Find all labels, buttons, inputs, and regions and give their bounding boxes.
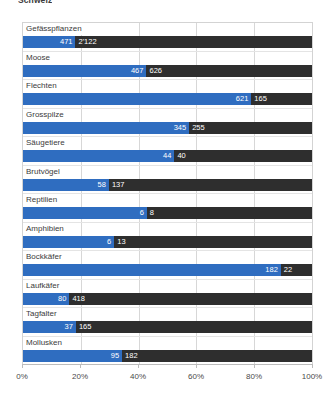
bar-value-label: 6	[140, 207, 144, 219]
chart-row: Moose467626	[23, 52, 312, 81]
x-axis-tick	[196, 364, 197, 368]
gridline	[312, 23, 313, 364]
bar-value-label: 345	[174, 122, 187, 134]
bar-segment-blau: 345	[23, 122, 189, 134]
x-axis-tick-label: 20%	[72, 372, 88, 381]
category-label: Säugetiere	[26, 137, 67, 149]
bar-value-label: 621	[236, 93, 249, 105]
bar-value-label: 418	[72, 293, 85, 305]
bar-segment-blau: 44	[23, 150, 174, 162]
x-axis-tick	[312, 364, 313, 368]
x-axis-tick	[138, 364, 139, 368]
stacked-bar: 345255	[23, 122, 312, 134]
bar-segment-dunkel: 182	[122, 350, 312, 362]
bar-segment-blau: 467	[23, 65, 146, 77]
bar-segment-dunkel: 626	[146, 65, 312, 77]
stacked-bar: 4712'122	[23, 36, 312, 48]
bar-segment-dunkel: 8	[147, 207, 312, 219]
category-label: Gefässpflanzen	[26, 23, 84, 35]
bar-value-label: 22	[284, 264, 292, 276]
bar-value-label: 2'122	[78, 36, 96, 48]
bar-value-label: 471	[60, 36, 73, 48]
stacked-bar: 467626	[23, 65, 312, 77]
category-label: Brutvögel	[26, 166, 62, 178]
x-axis-tick	[254, 364, 255, 368]
bar-value-label: 182	[265, 264, 278, 276]
bar-segment-blau: 80	[23, 293, 69, 305]
bar-value-label: 37	[65, 321, 73, 333]
bar-segment-dunkel: 40	[174, 150, 312, 162]
chart-plot-area: Gefässpflanzen4712'122Moose467626Flechte…	[22, 22, 313, 364]
bar-segment-dunkel: 137	[109, 179, 312, 191]
bar-segment-blau: 6	[23, 236, 114, 248]
stacked-bar: 37165	[23, 321, 312, 333]
category-label: Bockkäfer	[26, 251, 64, 263]
bar-segment-dunkel: 418	[69, 293, 312, 305]
stacked-bar: 58137	[23, 179, 312, 191]
bar-segment-dunkel: 2'122	[75, 36, 312, 48]
category-label: Amphibien	[26, 223, 66, 235]
stacked-bar: 68	[23, 207, 312, 219]
chart-row: Grosspilze345255	[23, 109, 312, 138]
bar-value-label: 58	[98, 179, 106, 191]
bar-segment-dunkel: 255	[189, 122, 312, 134]
bar-value-label: 165	[254, 93, 267, 105]
bar-segment-dunkel: 22	[281, 264, 312, 276]
bar-value-label: 626	[149, 65, 162, 77]
x-axis-tick-label: 100%	[302, 372, 322, 381]
bar-segment-dunkel: 165	[76, 321, 312, 333]
x-axis-line	[22, 364, 313, 365]
bar-segment-dunkel: 165	[251, 93, 312, 105]
category-label: Moose	[26, 52, 52, 64]
bar-segment-blau: 182	[23, 264, 281, 276]
x-axis-tick-label: 80%	[246, 372, 262, 381]
bar-segment-blau: 471	[23, 36, 75, 48]
stacked-bar: 80418	[23, 293, 312, 305]
chart-row: Gefässpflanzen4712'122	[23, 23, 312, 52]
category-label: Mollusken	[26, 337, 64, 349]
bar-value-label: 44	[163, 150, 171, 162]
x-axis-tick-label: 60%	[188, 372, 204, 381]
x-axis-tick-label: 40%	[130, 372, 146, 381]
bar-value-label: 467	[131, 65, 144, 77]
stacked-bar: 4440	[23, 150, 312, 162]
bar-segment-blau: 58	[23, 179, 109, 191]
bar-value-label: 80	[58, 293, 66, 305]
chart-title: Schweiz	[18, 0, 52, 3]
chart-row: Brutvögel58137	[23, 166, 312, 195]
category-label: Laufkäfer	[26, 280, 61, 292]
bar-segment-blau: 621	[23, 93, 251, 105]
chart-row: Tagfalter37165	[23, 308, 312, 337]
bar-value-label: 13	[117, 236, 125, 248]
bar-value-label: 95	[111, 350, 119, 362]
bar-value-label: 6	[107, 236, 111, 248]
x-axis-tick	[80, 364, 81, 368]
chart-row: Amphibien613	[23, 223, 312, 252]
bar-value-label: 165	[79, 321, 92, 333]
bar-segment-blau: 37	[23, 321, 76, 333]
chart-rows: Gefässpflanzen4712'122Moose467626Flechte…	[23, 23, 312, 364]
category-label: Reptilien	[26, 194, 59, 206]
bar-segment-blau: 6	[23, 207, 147, 219]
bar-value-label: 8	[150, 207, 154, 219]
stacked-bar: 621165	[23, 93, 312, 105]
chart-row: Bockkäfer18222	[23, 251, 312, 280]
bar-segment-dunkel: 13	[114, 236, 312, 248]
stacked-bar: 18222	[23, 264, 312, 276]
bar-value-label: 182	[125, 350, 138, 362]
chart-row: Flechten621165	[23, 80, 312, 109]
bar-value-label: 255	[192, 122, 205, 134]
category-label: Flechten	[26, 80, 59, 92]
chart-row: Mollusken95182	[23, 337, 312, 366]
bar-value-label: 40	[177, 150, 185, 162]
category-label: Tagfalter	[26, 308, 59, 320]
chart-row: Laufkäfer80418	[23, 280, 312, 309]
stacked-bar: 95182	[23, 350, 312, 362]
bar-segment-blau: 95	[23, 350, 122, 362]
stacked-bar: 613	[23, 236, 312, 248]
category-label: Grosspilze	[26, 109, 66, 121]
chart-row: Säugetiere4440	[23, 137, 312, 166]
chart-row: Reptilien68	[23, 194, 312, 223]
x-axis-tick	[22, 364, 23, 368]
x-axis-tick-label: 0%	[16, 372, 28, 381]
